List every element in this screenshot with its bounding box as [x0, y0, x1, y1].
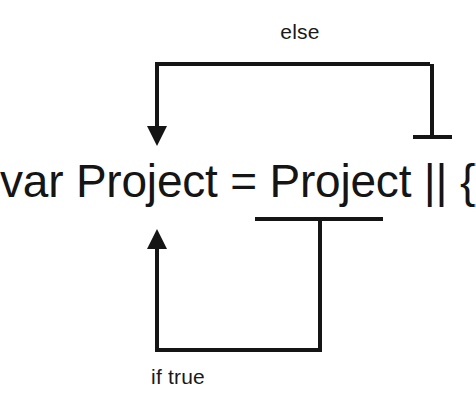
- if-true-branch-label: if true: [0, 366, 476, 387]
- if-true-branch-arrow: [147, 219, 383, 352]
- else-arrow-head-down-icon: [147, 126, 167, 146]
- if-true-arrow-head-up-icon: [147, 229, 167, 249]
- diagram-canvas: else var Project = Project || {}; if tru…: [0, 0, 476, 408]
- if-true-branch-label-text: if true: [151, 366, 205, 387]
- code-statement: var Project = Project || {};: [0, 158, 476, 204]
- else-branch-label-text: else: [280, 21, 319, 42]
- else-branch-arrow: [147, 62, 452, 146]
- else-branch-label: else: [0, 21, 476, 42]
